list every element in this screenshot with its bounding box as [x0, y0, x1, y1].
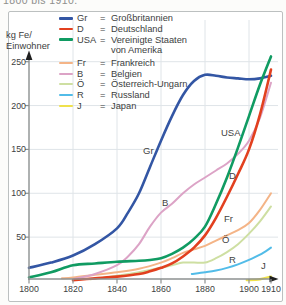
- y-tick-label-200: 200: [2, 101, 26, 111]
- legend-name-j: Japan: [111, 101, 136, 111]
- y-axis-unit-line1: kg Fe/: [6, 30, 50, 41]
- legend-row-r: R=Russland: [59, 90, 187, 101]
- legend-equals-b: =: [100, 69, 111, 79]
- legend-abbr-d: D: [77, 24, 100, 34]
- legend-row-fr: Fr=Frankreich: [59, 58, 187, 69]
- curve-label-j: J: [261, 261, 266, 271]
- legend-equals-d: =: [100, 24, 111, 34]
- legend-abbr-b: B: [77, 69, 100, 79]
- legend-name-fr: Frankreich: [111, 58, 155, 68]
- legend-row-usa: USA=Vereinigte Staaten: [59, 34, 187, 45]
- x-tick-label-1880: 1880: [191, 284, 219, 294]
- series-line-oe: [91, 206, 271, 279]
- legend-abbr-fr: Fr: [77, 58, 100, 68]
- legend-abbr-r: R: [77, 90, 100, 100]
- curve-label-oe: Ö: [222, 235, 229, 245]
- statistics-figure: 1800 bis 1910. kg Fe/ Einwohner Gr=Großb…: [0, 0, 286, 305]
- curve-label-usa: USA: [221, 128, 241, 138]
- y-tick-label-50: 50: [2, 232, 26, 242]
- legend-name-b: Belgien: [111, 69, 142, 79]
- curve-label-fr: Fr: [224, 214, 233, 224]
- legend-swatch-r: [59, 94, 73, 96]
- legend-equals-gr: =: [100, 13, 111, 23]
- x-tick-label-1820: 1820: [59, 284, 87, 294]
- legend-equals-oe: =: [100, 79, 111, 89]
- legend-name-r: Russland: [111, 90, 150, 100]
- curve-label-d: D: [229, 171, 236, 181]
- series-line-b: [73, 83, 271, 279]
- legend-row-j: J=Japan: [59, 101, 187, 112]
- legend-swatch-spacer: [59, 49, 73, 51]
- legend-name-gr: Großbritannien: [111, 13, 173, 23]
- legend-row-oe: Ö=Österreich-Ungarn: [59, 79, 187, 90]
- legend-abbr-usa: USA: [77, 35, 100, 45]
- legend-abbr-j: J: [77, 101, 100, 111]
- legend-name-oe: Österreich-Ungarn: [111, 79, 187, 89]
- y-axis-unit-label: kg Fe/ Einwohner: [6, 30, 50, 52]
- legend: Gr=GroßbritannienD=DeutschlandUSA=Verein…: [59, 13, 187, 111]
- legend-equals-usa: =: [100, 35, 111, 45]
- curve-label-r: R: [229, 255, 236, 265]
- legend-row-usa-cont: von Amerika: [59, 45, 187, 56]
- legend-row-b: B=Belgien: [59, 68, 187, 79]
- legend-equals-j: =: [100, 101, 111, 111]
- legend-row-d: D=Deutschland: [59, 24, 187, 35]
- legend-abbr-oe: Ö: [77, 79, 100, 89]
- legend-swatch-j: [59, 105, 73, 108]
- legend-row-gr: Gr=Großbritannien: [59, 13, 187, 24]
- legend-swatch-gr: [59, 17, 73, 20]
- legend-equals-r: =: [100, 90, 111, 100]
- legend-swatch-d: [59, 28, 73, 31]
- legend-swatch-usa: [59, 38, 73, 41]
- legend-equals-fr: =: [100, 58, 111, 68]
- curve-label-gr: Gr: [143, 146, 154, 156]
- y-axis-unit-line2: Einwohner: [6, 41, 50, 52]
- y-tick-label-100: 100: [2, 188, 26, 198]
- x-tick-label-1860: 1860: [147, 284, 175, 294]
- legend-abbr-gr: Gr: [77, 13, 100, 23]
- x-tick-label-1910: 1910: [257, 284, 285, 294]
- x-tick-label-1800: 1800: [15, 284, 43, 294]
- legend-swatch-fr: [59, 62, 73, 64]
- legend-name-usa-line2: von Amerika: [111, 45, 162, 55]
- y-tick-label-250: 250: [2, 57, 26, 67]
- legend-name-d: Deutschland: [111, 24, 163, 34]
- legend-swatch-oe: [59, 83, 73, 85]
- legend-name-usa: Vereinigte Staaten: [111, 35, 187, 45]
- x-tick-label-1840: 1840: [103, 284, 131, 294]
- legend-swatch-b: [59, 73, 73, 75]
- curve-label-b: B: [162, 198, 168, 208]
- y-tick-label-150: 150: [2, 144, 26, 154]
